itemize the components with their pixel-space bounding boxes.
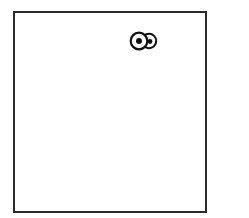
eyes-graphic: [128, 31, 160, 51]
drawing-frame: [13, 11, 207, 213]
googly-eyes-icon: [128, 31, 160, 51]
left-pupil: [136, 38, 142, 44]
